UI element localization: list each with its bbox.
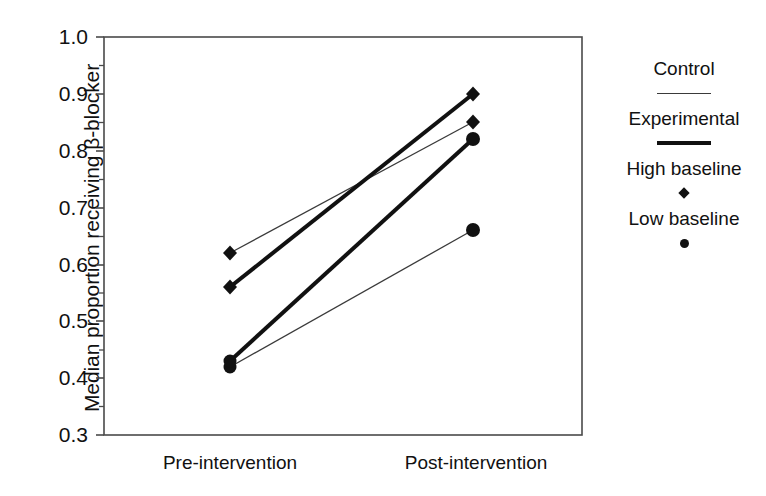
marker-diamond-control-high-pre — [223, 246, 237, 261]
legend-key-thick-line-icon — [604, 132, 764, 154]
series-line-experimental-high-baseline — [230, 94, 473, 287]
legend-entry-low-baseline: Low baseline — [604, 206, 764, 254]
legend-entry-control: Control — [604, 56, 764, 104]
marker-circle-control-low-post — [466, 223, 480, 237]
legend-entry-experimental: Experimental — [604, 106, 764, 154]
plot-frame — [104, 37, 582, 435]
series-line-control-high-baseline — [230, 122, 473, 253]
line-chart-figure: Median proportion receiving β-blocker 1.… — [0, 0, 766, 496]
legend-label-high-baseline: High baseline — [604, 156, 764, 182]
marker-diamond-control-high-post — [466, 115, 480, 130]
legend-label-control: Control — [604, 56, 764, 82]
legend-entry-high-baseline: High baseline — [604, 156, 764, 204]
legend-key-thin-line-icon — [604, 82, 764, 104]
legend-label-experimental: Experimental — [604, 106, 764, 132]
legend-key-circle-marker-icon — [604, 232, 764, 254]
legend-label-low-baseline: Low baseline — [604, 206, 764, 232]
legend-key-diamond-marker-icon — [604, 182, 764, 204]
marker-circle-experimental-low-post — [466, 132, 480, 146]
marker-circle-experimental-low-pre — [224, 355, 237, 368]
chart-legend: Control Experimental High baseline Low b… — [604, 56, 764, 256]
